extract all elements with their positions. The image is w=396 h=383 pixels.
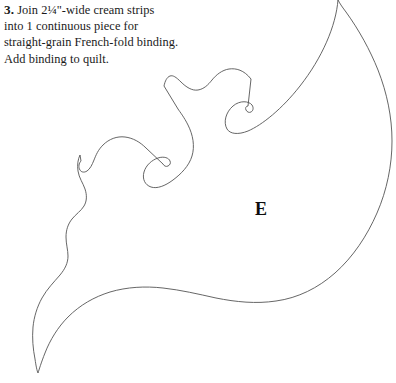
pattern-piece-label: E [255, 199, 267, 220]
pattern-piece-outline [0, 0, 396, 383]
pattern-outline-path [33, 0, 392, 373]
pattern-page: 3. Join 2¼"-wide cream strips into 1 con… [0, 0, 396, 383]
